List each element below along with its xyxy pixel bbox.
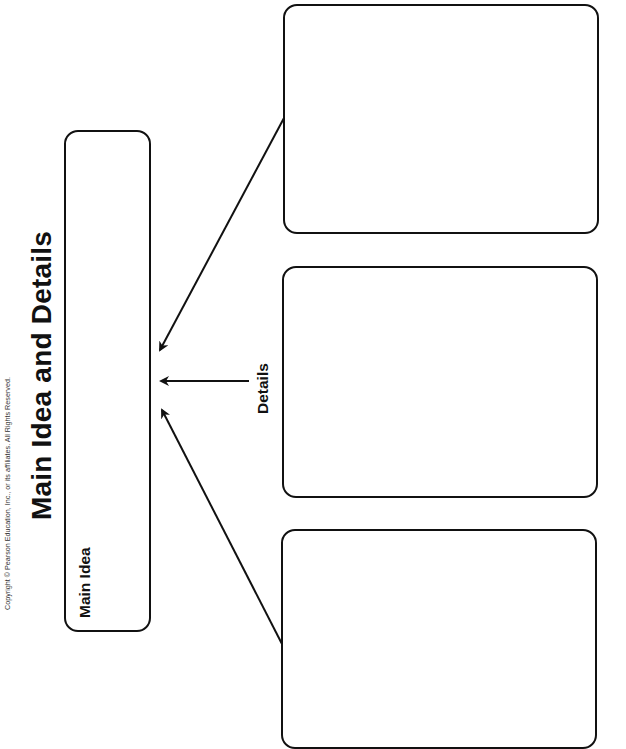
arrow-top-icon <box>160 118 284 350</box>
arrow-bottom-icon <box>162 410 282 644</box>
